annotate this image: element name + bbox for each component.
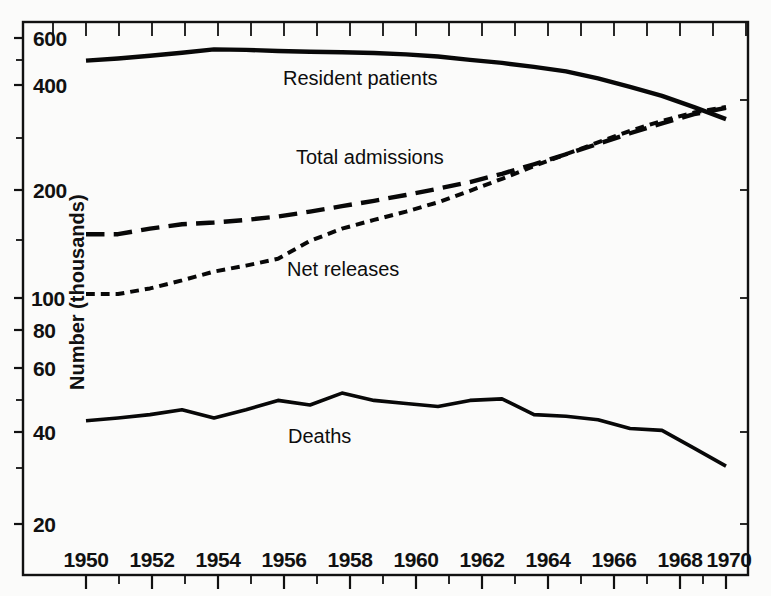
- chart-container: 600 400 200 100 80 60 40 20 Number (thou…: [0, 0, 771, 596]
- x-axis-major-ticks: [86, 575, 726, 589]
- y-axis-title: Number (thousands): [66, 194, 88, 390]
- net-releases-label: Net releases: [287, 258, 399, 280]
- line-chart: 600 400 200 100 80 60 40 20 Number (thou…: [0, 0, 771, 596]
- x-tick-label-1966: 1966: [591, 548, 636, 571]
- y-tick-label-100: 100: [31, 287, 65, 310]
- x-tick-label-1960: 1960: [393, 548, 438, 571]
- x-tick-label-1970: 1970: [706, 548, 751, 571]
- y-tick-label-400: 400: [33, 74, 67, 97]
- y-axis-major-ticks: [14, 38, 23, 524]
- x-tick-label-1964: 1964: [525, 548, 571, 571]
- y-tick-label-60: 60: [33, 357, 56, 380]
- x-tick-label-1958: 1958: [327, 548, 373, 571]
- series-line-total-admissions: [86, 108, 726, 234]
- y-tick-label-600: 600: [33, 27, 67, 50]
- y-tick-label-80: 80: [33, 319, 56, 342]
- resident-patients-label: Resident patients: [283, 67, 438, 89]
- x-tick-label-1950: 1950: [63, 548, 108, 571]
- x-tick-label-1962: 1962: [459, 548, 504, 571]
- x-tick-label-1954: 1954: [195, 548, 241, 571]
- x-axis-minor-ticks: [119, 575, 703, 584]
- x-tick-label-1968: 1968: [657, 548, 703, 571]
- deaths-label: Deaths: [288, 425, 351, 447]
- total-admissions-label: Total admissions: [296, 146, 444, 168]
- series-line-deaths: [86, 393, 726, 466]
- x-tick-label-1952: 1952: [129, 548, 174, 571]
- x-axis-top-ticks: [53, 22, 746, 36]
- plot-frame: [23, 22, 748, 575]
- x-tick-label-1956: 1956: [261, 548, 306, 571]
- y-tick-label-200: 200: [33, 179, 67, 202]
- series-layer: [86, 49, 726, 466]
- y-tick-label-40: 40: [33, 421, 56, 444]
- y-tick-label-20: 20: [33, 513, 56, 536]
